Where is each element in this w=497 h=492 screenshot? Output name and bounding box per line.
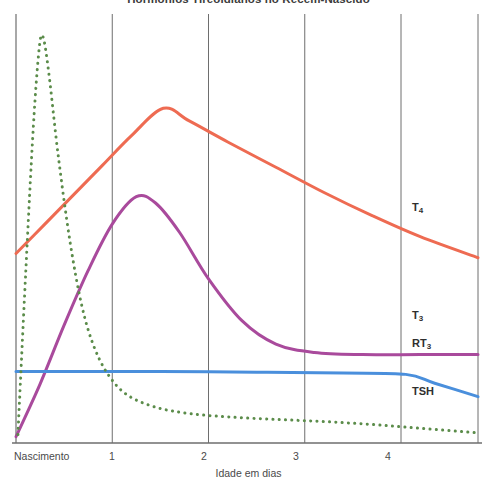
series-label-t3-subscript: 3 bbox=[419, 314, 423, 323]
series-label-t4: T4 bbox=[412, 201, 423, 213]
series-label-rt3: RT3 bbox=[412, 337, 431, 349]
axes-group bbox=[12, 14, 482, 443]
thyroid-hormone-chart: Hormônios Tireoidianos no Recém-Nascido … bbox=[0, 0, 497, 492]
x-tick-label-3: 3 bbox=[293, 450, 299, 462]
series-label-t3-text: T bbox=[412, 309, 419, 321]
series-group bbox=[16, 35, 478, 437]
series-label-t4-text: T bbox=[412, 201, 419, 213]
series-label-t4-subscript: 4 bbox=[419, 206, 423, 215]
series-label-rt3-subscript: 3 bbox=[427, 342, 431, 351]
x-tick-label-nascimento: Nascimento bbox=[14, 450, 69, 462]
series-label-tsh: TSH bbox=[412, 385, 434, 397]
series-line-rt3 bbox=[16, 371, 478, 396]
series-label-tsh-text: TSH bbox=[412, 385, 434, 397]
series-label-rt3-text: RT bbox=[412, 337, 427, 349]
x-tick-label-4: 4 bbox=[385, 450, 391, 462]
x-tick-label-2: 2 bbox=[201, 450, 207, 462]
x-tick-label-1: 1 bbox=[109, 450, 115, 462]
chart-plot-area bbox=[0, 0, 497, 492]
series-line-t4 bbox=[16, 108, 478, 258]
series-label-t3: T3 bbox=[412, 309, 423, 321]
x-axis-title: Idade em dias bbox=[0, 467, 497, 479]
